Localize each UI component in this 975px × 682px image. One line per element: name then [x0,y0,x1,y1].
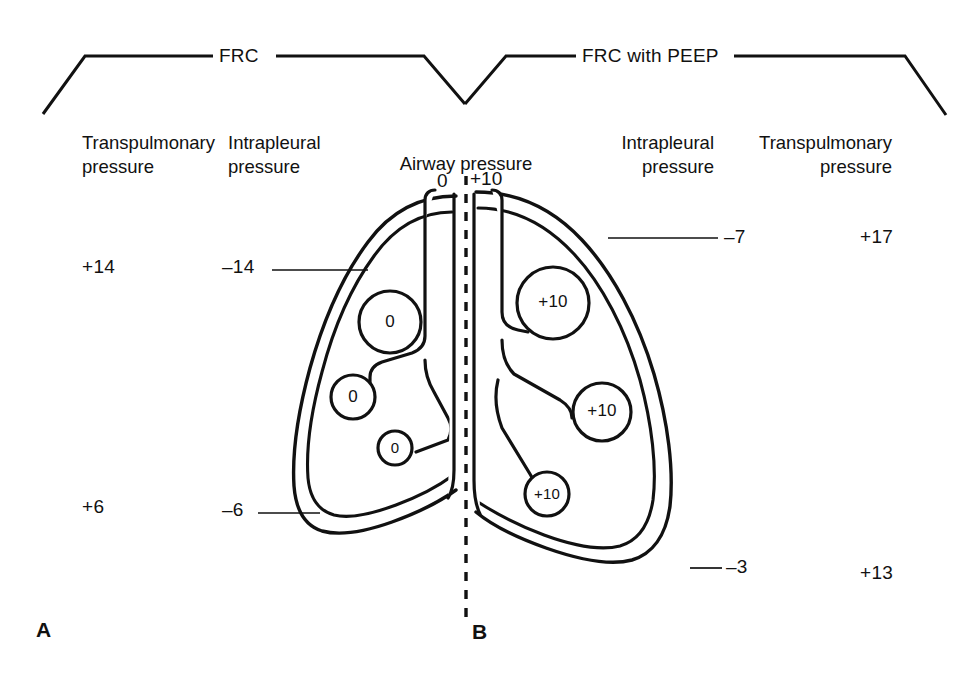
a-alveolus-middle-value: 0 [338,387,368,407]
heading-right-intrapleural-pressure: Intrapleural pressure [580,131,714,178]
a-intrapleural-pressure-apex: –14 [222,256,255,278]
heading-right-transpulmonary-pressure: Transpulmonary pressure [726,131,892,178]
top-bracket [43,56,946,115]
panel-b-lung [474,190,722,568]
lung-pressure-figure: FRC FRC with PEEP Transpulmonary pressur… [0,0,975,682]
heading-line-2: pressure [726,155,892,179]
b-alveolus-upper-value: +10 [528,292,578,312]
heading-line-1: Airway pressure [390,152,542,176]
a-intrapleural-pressure-base: –6 [222,499,244,521]
heading-line-2: pressure [228,155,321,179]
a-alveolus-lower-value: 0 [381,439,409,457]
bracket-frc-right-span [276,56,465,104]
bracket-right-arm [734,56,946,115]
bracket-left-arm [43,56,213,114]
airway-pressure-value-left: 0 [437,170,448,192]
b-intrapleural-pressure-base: –3 [726,556,748,578]
heading-left-transpulmonary-pressure: Transpulmonary pressure [82,131,215,178]
bracket-peep-left-span [465,56,576,104]
heading-line-1: Transpulmonary [82,131,215,155]
airway-pressure-value-right: +10 [470,168,502,190]
panel-letter-a: A [36,618,52,643]
heading-line-1: Intrapleural [580,131,714,155]
heading-line-2: pressure [580,155,714,179]
a-alveolus-upper-value: 0 [375,312,405,332]
a-transpulmonary-pressure-apex: +14 [82,256,115,278]
b-transpulmonary-pressure-base: +13 [860,562,893,584]
heading-line-2: pressure [82,155,215,179]
b-intrapleural-pressure-apex: –7 [724,226,746,248]
b-alveolus-lower-value: +10 [524,485,570,503]
b-transpulmonary-pressure-apex: +17 [860,226,893,248]
diagram-artwork [0,0,975,682]
bracket-label-frc-with-peep: FRC with PEEP [582,45,719,67]
heading-airway-pressure: Airway pressure [390,152,542,176]
heading-line-1: Intrapleural [228,131,321,155]
bracket-label-frc: FRC [219,45,259,67]
a-transpulmonary-pressure-base: +6 [82,496,104,518]
heading-line-1: Transpulmonary [726,131,892,155]
heading-left-intrapleural-pressure: Intrapleural pressure [228,131,321,178]
panel-letter-b: B [472,620,488,645]
panel-a-lung [258,190,456,533]
b-alveolus-middle-value: +10 [577,401,627,421]
